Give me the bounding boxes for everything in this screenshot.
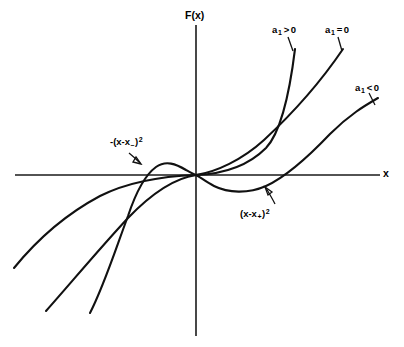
curve-a1-positive bbox=[14, 49, 295, 268]
series-label-a1-negative-operator: < bbox=[366, 82, 374, 93]
chart-figure: F(x) x a1>0 a1=0 a1<0 -(x-x–)2 (x-x+)2 bbox=[0, 0, 404, 347]
curve-label-right-well-exponent: 2 bbox=[265, 208, 269, 215]
series-label-a1-zero-value: 0 bbox=[344, 24, 350, 35]
pointer-left-hump bbox=[129, 153, 140, 163]
curve-label-right-well-prefix: (x-x bbox=[240, 208, 257, 219]
series-label-a1-negative-value: 0 bbox=[374, 82, 380, 93]
series-label-a1-positive-operator: > bbox=[283, 24, 291, 35]
x-axis-label: x bbox=[383, 168, 389, 179]
curve-label-left-hump-prefix: -(x-x bbox=[110, 136, 130, 147]
series-label-a1-positive: a1>0 bbox=[272, 25, 296, 36]
pointer-a1-zero bbox=[338, 37, 342, 51]
series-label-a1-negative-base: a bbox=[355, 82, 361, 93]
curve-a1-zero bbox=[46, 49, 343, 311]
series-label-a1-zero-base: a bbox=[325, 24, 331, 35]
series-label-a1-positive-base: a bbox=[272, 24, 278, 35]
curve-label-left-hump-exponent: 2 bbox=[138, 136, 142, 143]
curve-label-left-hump: -(x-x–)2 bbox=[110, 136, 143, 148]
curve-label-right-well: (x-x+)2 bbox=[240, 208, 270, 220]
series-label-a1-positive-value: 0 bbox=[291, 24, 297, 35]
series-label-a1-zero-operator: = bbox=[336, 24, 344, 35]
chart-plot-area bbox=[0, 0, 404, 347]
y-axis-label: F(x) bbox=[185, 10, 204, 21]
pointer-a1-positive bbox=[288, 37, 293, 51]
series-label-a1-negative: a1<0 bbox=[355, 83, 379, 94]
curve-a1-negative bbox=[90, 98, 378, 313]
series-label-a1-zero: a1=0 bbox=[325, 25, 349, 36]
